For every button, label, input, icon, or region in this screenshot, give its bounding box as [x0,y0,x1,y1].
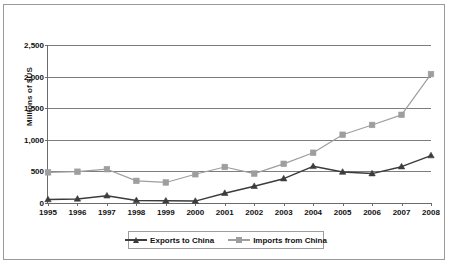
data-point-marker [104,192,110,198]
series-layer [48,45,431,203]
x-tick-mark [343,203,344,206]
series-line [48,156,431,202]
x-tick-mark [107,203,108,206]
y-tick-label: 1,000 [24,135,44,144]
data-point-marker [134,178,140,184]
x-tick-label: 2005 [334,208,352,217]
data-point-marker [428,71,434,77]
y-tick-label: 2,000 [24,72,44,81]
data-point-marker [310,163,316,169]
data-point-marker [222,164,228,170]
data-point-marker [45,170,51,176]
x-tick-label: 2002 [245,208,263,217]
square-marker-icon [228,235,250,245]
x-tick-mark [136,203,137,206]
data-point-marker [369,122,375,128]
x-tick-label: 2008 [422,208,440,217]
y-tick-label: 0 [40,199,44,208]
legend-item-exports[interactable]: Exports to China [125,235,214,245]
data-point-marker [251,171,257,177]
data-point-marker [281,161,287,167]
x-tick-mark [431,203,432,206]
data-point-marker [399,112,405,118]
data-point-marker [104,166,110,172]
x-tick-mark [402,203,403,206]
x-tick-mark [254,203,255,206]
x-tick-mark [313,203,314,206]
legend-label: Exports to China [150,236,214,245]
chart-legend: Exports to ChinaImports from China [128,231,324,249]
x-tick-mark [48,203,49,206]
data-point-marker [75,169,81,175]
x-tick-label: 2003 [275,208,293,217]
triangle-marker-icon [125,235,147,245]
x-tick-mark [225,203,226,206]
x-tick-mark [166,203,167,206]
x-tick-label: 1995 [39,208,57,217]
x-tick-label: 2001 [216,208,234,217]
data-point-marker [163,180,169,186]
x-tick-label: 1997 [98,208,116,217]
y-tick-label: 500 [31,167,44,176]
x-tick-mark [77,203,78,206]
x-tick-label: 2006 [363,208,381,217]
legend-label: Imports from China [253,236,327,245]
data-point-marker [310,150,316,156]
y-tick-label: 1,500 [24,104,44,113]
x-tick-label: 1996 [69,208,87,217]
data-point-marker [193,171,199,177]
x-tick-label: 1998 [127,208,145,217]
chart-figure: Millions of $US 05001,0001,5002,0002,500… [0,0,451,265]
x-tick-label: 2000 [186,208,204,217]
x-tick-label: 1999 [157,208,175,217]
x-tick-label: 2004 [304,208,322,217]
data-point-marker [340,132,346,138]
x-tick-mark [284,203,285,206]
x-tick-label: 2007 [393,208,411,217]
plot-area: 05001,0001,5002,0002,500 199519961997199… [47,45,431,204]
y-tick-label: 2,500 [24,41,44,50]
legend-item-imports[interactable]: Imports from China [228,235,327,245]
x-tick-mark [372,203,373,206]
